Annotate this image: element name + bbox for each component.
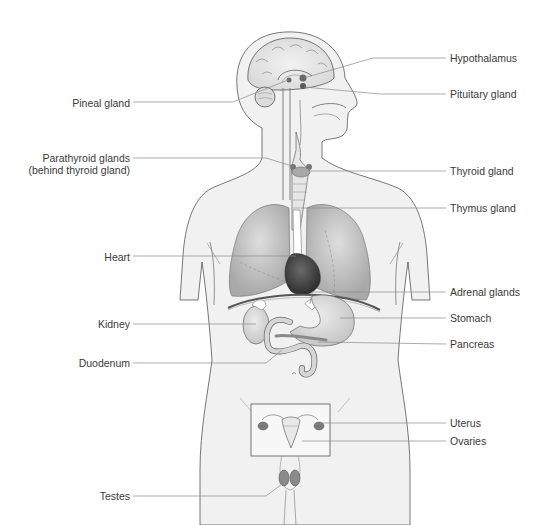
label-heart: Heart xyxy=(104,251,130,263)
label-pituitary-gland: Pituitary gland xyxy=(450,88,517,100)
label-testes: Testes xyxy=(100,490,130,502)
thyroid-gland xyxy=(292,167,310,177)
label-parathyroid-glands: Parathyroid glands xyxy=(42,152,130,164)
ovary-left xyxy=(258,422,268,430)
testis-left xyxy=(279,470,289,486)
hypothalamus xyxy=(300,75,307,82)
label-thymus-gland: Thymus gland xyxy=(450,202,516,214)
label-thyroid-gland: Thyroid gland xyxy=(450,165,514,177)
label-hypothalamus: Hypothalamus xyxy=(450,52,517,64)
label-kidney: Kidney xyxy=(98,318,130,330)
label-adrenal-glands: Adrenal glands xyxy=(450,286,520,298)
label-pancreas: Pancreas xyxy=(450,338,494,350)
label-parathyroid-note: (behind thyroid gland) xyxy=(28,164,130,176)
label-uterus: Uterus xyxy=(450,417,481,429)
label-duodenum: Duodenum xyxy=(79,357,130,369)
endocrine-diagram: Pineal gland Parathyroid glands (behind … xyxy=(0,0,539,525)
female-reproductive-inset xyxy=(251,404,330,456)
pituitary-gland xyxy=(300,83,306,89)
label-pineal-gland: Pineal gland xyxy=(72,97,130,109)
label-stomach: Stomach xyxy=(450,312,491,324)
label-ovaries: Ovaries xyxy=(450,435,486,447)
testis-right xyxy=(290,470,300,486)
